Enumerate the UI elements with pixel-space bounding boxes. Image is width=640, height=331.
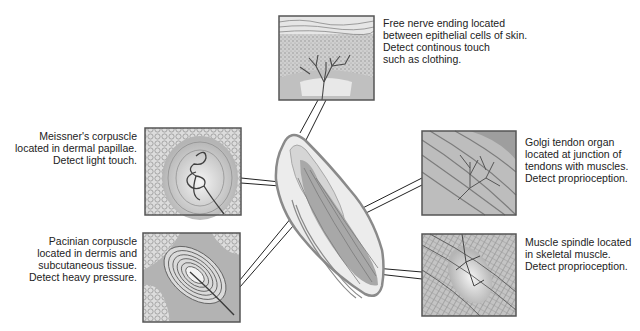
- panel-meissners-corpuscle: [145, 128, 241, 220]
- finger-illustration: [276, 135, 384, 298]
- panel-pacinian-corpuscle: [143, 233, 240, 322]
- receptor-diagram: [0, 0, 640, 331]
- panel-free-nerve-ending: [279, 16, 374, 100]
- panel-golgi-tendon-organ: [422, 131, 516, 215]
- panel-muscle-spindle: [422, 234, 516, 316]
